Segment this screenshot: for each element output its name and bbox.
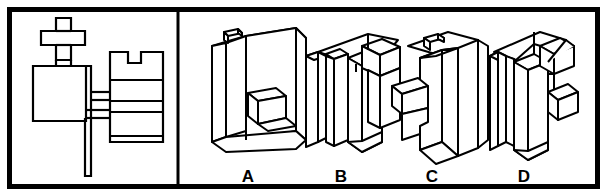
option-b-fin-side bbox=[318, 52, 326, 142]
option-b-label: B bbox=[335, 167, 347, 186]
option-a-back-right bbox=[296, 28, 306, 140]
option-a-rail-front bbox=[212, 43, 226, 142]
option-d-fin2-front bbox=[506, 56, 514, 146]
option-d-slab-left bbox=[514, 62, 528, 160]
option-b-fin2-side bbox=[334, 54, 348, 146]
option-b-leg-left bbox=[368, 70, 380, 128]
option-a-rail-side bbox=[226, 36, 246, 137]
figure-container: A B C D bbox=[0, 0, 607, 196]
option-a-label: A bbox=[242, 167, 254, 186]
option-c-back-right bbox=[478, 40, 488, 148]
option-b-fin-front bbox=[306, 52, 318, 147]
option-d-label: D bbox=[518, 167, 530, 186]
option-c-main-side bbox=[442, 48, 458, 156]
option-c-back-front bbox=[458, 40, 478, 156]
option-b-slab-left bbox=[348, 58, 362, 152]
option-d-fin-front bbox=[490, 52, 498, 150]
option-a-solid[interactable] bbox=[212, 28, 306, 152]
option-d-fin-side bbox=[498, 52, 506, 146]
option-c-label: C bbox=[426, 167, 438, 186]
option-b-fin2-front bbox=[326, 56, 334, 146]
figure-svg: A B C D bbox=[0, 0, 607, 196]
